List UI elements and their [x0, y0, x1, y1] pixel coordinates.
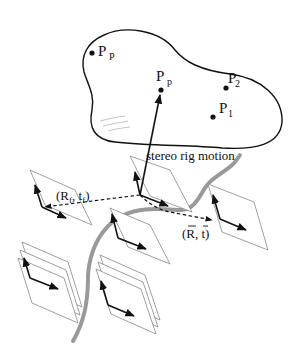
camera-right-frame — [208, 184, 268, 250]
point-Pp — [158, 87, 163, 92]
point-Pp-label: P — [156, 68, 164, 84]
scene-surface — [83, 30, 282, 148]
stereo-rig-diagram: P P P p P 2 P 1 stereo rig motion — [0, 0, 295, 361]
svg-text:p: p — [167, 76, 172, 87]
point-P2 — [223, 85, 228, 90]
point-P1-label: P — [219, 100, 227, 116]
svg-text:2: 2 — [235, 78, 240, 89]
camera-stack-middle — [96, 255, 160, 334]
camera-stack-left — [18, 242, 82, 323]
ref-pose-label: (Rf, tf) — [56, 188, 89, 205]
camera-middle-front — [110, 208, 170, 264]
svg-text:P: P — [109, 51, 115, 62]
camera-current-frame — [130, 156, 192, 212]
motion-label: stereo rig motion — [146, 148, 235, 163]
point-P1 — [210, 114, 215, 119]
point-PP — [89, 50, 94, 55]
point-PP-label: P — [98, 43, 106, 59]
rel-pose-label: (R, t) — [182, 226, 209, 241]
svg-text:1: 1 — [228, 108, 233, 119]
